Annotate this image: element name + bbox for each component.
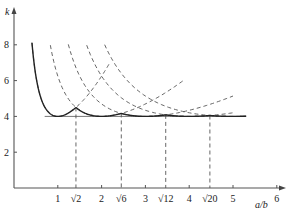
x-tick-label: 1 (55, 193, 60, 204)
y-axis-label: k (5, 6, 10, 17)
x-special-tick-label: √2 (71, 193, 82, 204)
x-special-tick-label: √12 (158, 193, 174, 204)
curves (32, 43, 246, 188)
y-axis-arrow (12, 7, 17, 14)
curve-m3 (68, 44, 233, 116)
labels: k a/b (5, 6, 268, 210)
y-tick-label: 8 (4, 39, 9, 50)
x-tick-label: 5 (231, 193, 236, 204)
x-tick-label: 2 (99, 193, 104, 204)
curve-m5 (105, 45, 246, 117)
y-tick-label: 4 (4, 111, 9, 122)
x-axis-arrow (279, 186, 286, 191)
x-tick-label: 6 (274, 193, 279, 204)
y-tick-label: 2 (4, 147, 9, 158)
y-tick-label: 6 (4, 75, 9, 86)
buckling-coefficient-chart: 2468123456√2√6√12√20 k a/b (0, 0, 290, 212)
curve-m4 (87, 45, 233, 116)
axes: 2468123456√2√6√12√20 (4, 7, 286, 204)
envelope-curve (32, 43, 246, 117)
curve-m2 (50, 45, 184, 116)
x-tick-label: 4 (187, 193, 192, 204)
x-special-tick-label: √6 (116, 193, 127, 204)
x-special-tick-label: √20 (202, 193, 218, 204)
x-tick-label: 3 (143, 193, 148, 204)
x-axis-label: a/b (255, 199, 268, 210)
